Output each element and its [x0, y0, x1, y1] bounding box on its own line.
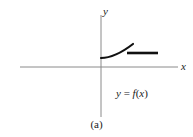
function-curve [101, 44, 133, 58]
function-equation-label: y = f(x) [116, 88, 148, 99]
graph-canvas [0, 0, 193, 137]
equation-equals: = [121, 87, 133, 99]
figure-container: y x y = f(x) (a) [0, 0, 193, 137]
x-axis-label: x [181, 61, 186, 72]
y-axis-label: y [103, 6, 108, 17]
figure-caption: (a) [0, 119, 193, 130]
equation-close-paren: ) [144, 87, 148, 99]
